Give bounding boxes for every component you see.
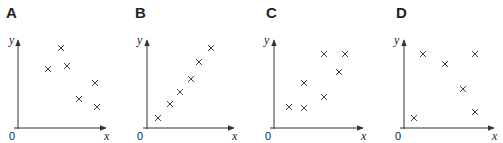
cross-marker-icon — [155, 115, 161, 121]
cross-marker-icon — [472, 51, 478, 57]
axes-b: y x 0 — [136, 33, 238, 143]
x-axis-label: x — [360, 129, 367, 143]
x-axis-label: x — [231, 129, 238, 143]
x-axis-label: x — [103, 129, 110, 143]
cross-marker-icon — [321, 51, 327, 57]
cross-marker-icon — [472, 109, 478, 115]
cross-marker-icon — [92, 80, 98, 86]
cross-marker-icon — [167, 101, 173, 107]
y-axis-label: y — [263, 33, 270, 47]
cross-marker-icon — [188, 76, 194, 82]
x-axis-label: x — [491, 129, 498, 143]
cross-marker-icon — [411, 115, 417, 121]
cross-marker-icon — [45, 66, 51, 72]
axes-d: y x 0 — [393, 33, 498, 143]
cross-marker-icon — [286, 104, 292, 110]
y-axis-label: y — [8, 33, 15, 47]
cross-marker-icon — [321, 94, 327, 100]
y-axis-label: y — [136, 33, 143, 47]
cross-marker-icon — [76, 96, 82, 102]
cross-marker-icon — [460, 86, 466, 92]
cross-marker-icon — [342, 51, 348, 57]
origin-label: 0 — [395, 130, 401, 142]
y-axis-label: y — [393, 33, 400, 47]
origin-label: 0 — [265, 130, 271, 142]
origin-label: 0 — [9, 130, 15, 142]
axes-c: y x 0 — [263, 33, 367, 143]
data-markers — [45, 45, 478, 121]
cross-marker-icon — [94, 104, 100, 110]
scatter-plots: y x 0 y x 0 y x 0 y x 0 — [0, 0, 503, 143]
cross-marker-icon — [208, 45, 214, 51]
cross-marker-icon — [301, 105, 307, 111]
cross-marker-icon — [336, 69, 342, 75]
cross-marker-icon — [420, 51, 426, 57]
origin-label: 0 — [137, 130, 143, 142]
cross-marker-icon — [177, 89, 183, 95]
cross-marker-icon — [442, 61, 448, 67]
cross-marker-icon — [64, 63, 70, 69]
cross-marker-icon — [301, 80, 307, 86]
cross-marker-icon — [58, 45, 64, 51]
cross-marker-icon — [196, 59, 202, 65]
